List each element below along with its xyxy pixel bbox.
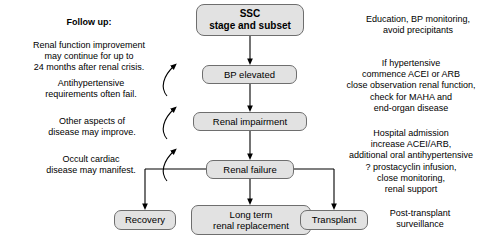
node-renal-impairment[interactable]: Renal impairment — [193, 112, 307, 131]
note-if-hypertensive-management: If hypertensive commence ACEI or ARB clo… — [332, 58, 490, 114]
flowchart-diagram: SSC stage and subset BP elevated Renal i… — [0, 0, 491, 246]
node-recovery[interactable]: Recovery — [114, 210, 176, 230]
note-hospital-admission-management: Hospital admission increase ACEI/ARB, ad… — [332, 128, 490, 195]
node-bp-elevated[interactable]: BP elevated — [202, 65, 297, 84]
note-post-transplant-surveillance: Post-transplant surveillance — [356, 208, 484, 230]
note-follow-up-heading: Follow up: — [6, 17, 172, 28]
node-renal-failure[interactable]: Renal failure — [206, 160, 294, 179]
note-follow-up-body: Renal function improvement may continue … — [33, 40, 145, 72]
note-antihypertensive-requirements: Antihypertensive requirements often fail… — [16, 78, 166, 100]
note-education-bp-monitoring: Education, BP monitoring, avoid precipit… — [348, 14, 488, 36]
note-occult-cardiac-disease: Occult cardiac disease may manifest. — [16, 154, 166, 176]
node-long-term-renal-replacement[interactable]: Long term renal replacement — [191, 205, 311, 235]
note-follow-up: Follow up: Renal function improvement ma… — [6, 6, 172, 73]
node-ssc-stage-and-subset[interactable]: SSC stage and subset — [196, 4, 304, 36]
curved-arrow-other-aspects — [163, 109, 174, 139]
note-other-aspects-of-disease: Other aspects of disease may improve. — [22, 116, 162, 138]
